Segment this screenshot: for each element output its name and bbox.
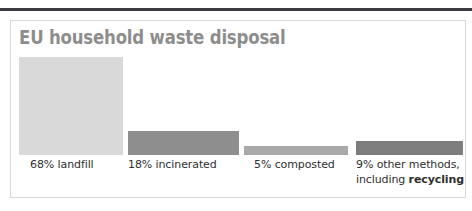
bar-label-other-methods: 9% other methods, including recycling [356,157,468,187]
bar-label-landfill: 68% landfill [30,157,135,172]
chart-frame: EU household waste disposal 68% landfill… [10,20,466,198]
bar-label-other-methods-line1: 9% other methods, [356,158,460,171]
figure-page: EU household waste disposal 68% landfill… [0,0,472,211]
bars-container [11,21,467,155]
top-divider-rule [0,8,472,11]
bar-label-other-methods-line2: including recycling [356,172,468,187]
bar-label-composted-text: 5% composted [254,158,335,171]
bar-incinerated[interactable] [128,131,239,155]
plot-area: 68% landfill 18% incinerated 5% composte… [11,21,467,199]
bar-label-other-methods-line2-text: including [356,173,409,186]
bar-label-composted: 5% composted [254,157,354,172]
bar-label-recycling-emphasis: recycling [409,173,464,186]
bar-composted[interactable] [244,146,348,155]
bar-label-incinerated-text: 18% incinerated [128,158,217,171]
bar-other-methods[interactable] [356,141,463,155]
bar-label-incinerated: 18% incinerated [128,157,248,172]
bar-labels-container: 68% landfill 18% incinerated 5% composte… [11,157,467,199]
bar-landfill[interactable] [19,57,123,155]
bar-label-landfill-text: 68% landfill [30,158,94,171]
